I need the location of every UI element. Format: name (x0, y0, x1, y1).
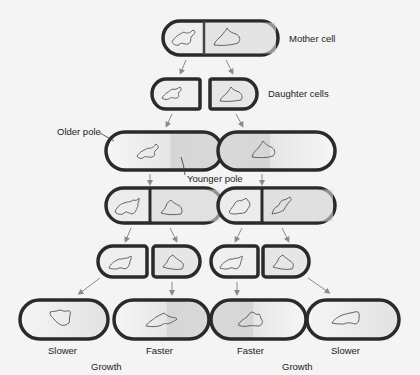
growth-caption-left: Growth (91, 361, 122, 372)
mother-cell (163, 21, 278, 55)
younger-pole-label: Younger pole (187, 173, 243, 184)
arrow-icon (80, 278, 100, 293)
granddaughter-cell-2 (153, 246, 200, 277)
arrow-icon (226, 60, 232, 72)
elongated-cell-left (106, 132, 222, 170)
growth-rate-label-slower-right: Slower (331, 345, 360, 356)
daughter-cells-label: Daughter cells (268, 88, 329, 99)
cell-division-diagram: Mother cell Daughter cells Older pole Yo… (0, 0, 420, 375)
growing-cell-4 (307, 300, 399, 339)
daughter-cell-right (210, 79, 257, 109)
dividing-cell-left (106, 188, 222, 223)
growing-cell-3 (211, 300, 306, 339)
dividing-cell-right (218, 188, 335, 223)
arrow-icon (181, 60, 186, 72)
granddaughter-cell-4 (263, 246, 309, 277)
growth-caption-right: Growth (282, 361, 313, 372)
arrow-icon (126, 228, 131, 240)
mother-cell-label: Mother cell (289, 33, 335, 44)
arrow-icon (170, 228, 176, 240)
growing-cell-2 (114, 300, 209, 339)
growth-rate-label-faster-right: Faster (237, 345, 264, 356)
granddaughter-cell-3 (211, 246, 258, 277)
arrow-icon (236, 114, 242, 125)
growing-cell-1 (20, 300, 108, 339)
growth-rate-label-slower-left: Slower (48, 345, 77, 356)
daughter-cell-left (152, 79, 200, 109)
arrow-icon (167, 114, 172, 125)
arrow-icon (308, 278, 328, 292)
elongated-cell-right (218, 132, 335, 170)
growth-rate-label-faster-left: Faster (146, 345, 173, 356)
arrow-icon (282, 228, 288, 240)
older-pole-label: Older pole (57, 126, 101, 137)
granddaughter-cell-1 (98, 246, 147, 277)
arrow-icon (236, 228, 242, 240)
